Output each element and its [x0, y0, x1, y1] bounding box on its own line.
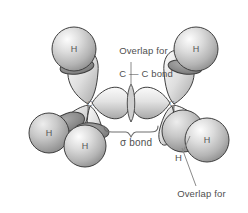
ch-overlap-line2: C — H bond	[177, 211, 231, 213]
cc-overlap-line2: C — C bond	[119, 68, 173, 79]
right-sigma-lobe	[131, 87, 170, 119]
h-label-top-right: H	[193, 44, 200, 54]
cc-overlap-label: Overlap for C — C bond	[108, 33, 173, 91]
h-free-label: H	[175, 152, 182, 164]
h-label-lower-left: H	[46, 128, 53, 138]
c-label-right: C	[169, 99, 175, 108]
h-label-lower-right: H	[204, 135, 211, 145]
h-label-bottom-left: H	[82, 141, 89, 151]
sigma-bond-label: σ bond	[120, 137, 152, 149]
sigma-brace	[104, 126, 158, 137]
c-label-left: C	[87, 99, 93, 108]
left-sigma-lobe	[92, 87, 131, 119]
orbital-diagram-figure: H H H H H C C Overlap for	[0, 0, 248, 212]
h-label-top-left: H	[71, 44, 78, 54]
ch-overlap-line1: Overlap for	[177, 188, 226, 199]
ch-overlap-label: Overlap for C — H bond	[166, 176, 231, 212]
cc-overlap-line1: Overlap for	[119, 45, 168, 56]
